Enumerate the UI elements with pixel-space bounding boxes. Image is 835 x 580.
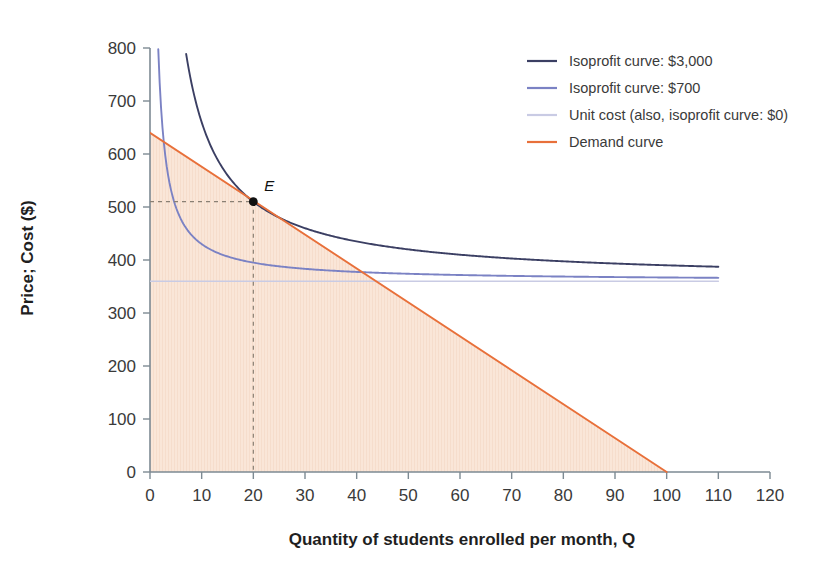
y-tick-label: 200 [108,357,136,376]
y-tick-label: 300 [108,304,136,323]
y-tick-label: 500 [108,198,136,217]
x-tick-label: 110 [705,486,732,505]
x-tick-label: 80 [554,486,573,505]
x-tick-labels: 0102030405060708090100110120 [145,486,784,505]
y-tick-label: 0 [127,463,136,482]
y-tick-labels: 0100200300400500600700800 [108,39,136,482]
legend-item: Demand curve [527,134,663,150]
legend-item: Unit cost (also, isoprofit curve: $0) [527,107,788,123]
x-tick-label: 60 [451,486,470,505]
legend: Isoprofit curve: $3,000Isoprofit curve: … [527,53,788,150]
chart-canvas: 0100200300400500600700800 01020304050607… [0,0,835,580]
y-tick-label: 100 [108,410,136,429]
x-tick-label: 0 [145,486,154,505]
x-tick-label: 10 [192,486,211,505]
x-tick-label: 120 [756,486,784,505]
x-tick-label: 40 [347,486,366,505]
y-tick-label: 400 [108,251,136,270]
legend-label: Demand curve [569,134,663,150]
y-tick-label: 700 [108,92,136,111]
point-e-label: E [264,177,275,194]
x-tick-label: 50 [399,486,418,505]
x-tick-label: 20 [244,486,263,505]
legend-label: Unit cost (also, isoprofit curve: $0) [569,107,788,123]
point-e-marker [249,197,258,206]
y-tick-label: 800 [108,39,136,58]
legend-item: Isoprofit curve: $3,000 [527,53,712,69]
x-tick-label: 100 [652,486,680,505]
y-tick-label: 600 [108,145,136,164]
chart-figure: 0100200300400500600700800 01020304050607… [0,0,835,580]
y-axis-title: Price; Cost ($) [18,200,37,315]
x-tick-label: 90 [606,486,625,505]
legend-label: Isoprofit curve: $700 [569,80,700,96]
x-tick-label: 70 [502,486,521,505]
point-e-dot [249,197,258,206]
x-tick-label: 30 [296,486,315,505]
legend-label: Isoprofit curve: $3,000 [569,53,712,69]
x-axis-title: Quantity of students enrolled per month,… [289,530,636,549]
legend-item: Isoprofit curve: $700 [527,80,700,96]
